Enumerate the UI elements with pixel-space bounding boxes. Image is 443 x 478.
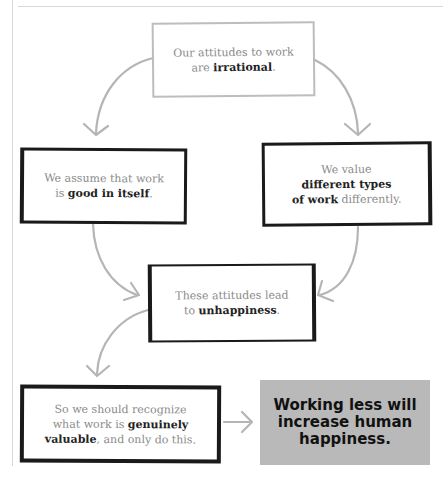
node-text: are bbox=[191, 61, 213, 74]
node-unhappy: These attitudes lead to unhappiness. bbox=[148, 263, 317, 342]
node-text: . bbox=[277, 304, 281, 317]
arrow-assume-to-unhappy bbox=[93, 224, 137, 295]
node-text: We value bbox=[321, 162, 371, 175]
node-text: . bbox=[272, 60, 276, 73]
node-text: These attitudes lead bbox=[175, 289, 288, 303]
arrow-unhappy-to-recognize bbox=[97, 310, 148, 374]
node-text: We assume that work bbox=[44, 172, 164, 186]
node-bold-text: different types bbox=[301, 177, 391, 191]
node-bold-text: unhappiness bbox=[198, 304, 276, 318]
conclusion-text: increase human bbox=[278, 413, 413, 431]
node-text: , and only do this. bbox=[97, 432, 197, 446]
arrow-value-to-unhappy bbox=[320, 227, 358, 295]
node-text: differently. bbox=[338, 192, 402, 206]
node-conclusion: Working less will increase human happine… bbox=[260, 380, 430, 465]
conclusion-text: Working less will bbox=[273, 396, 416, 414]
node-bold-text: good in itself bbox=[68, 187, 149, 201]
node-text: Our attitudes to work bbox=[173, 45, 294, 59]
node-value: We value different types of work differe… bbox=[262, 141, 433, 226]
node-premise: Our attitudes to work are irrational. bbox=[152, 21, 316, 98]
arrow-premise-to-value bbox=[315, 60, 358, 133]
arrow-premise-to-assume bbox=[96, 58, 153, 133]
node-text: what work is bbox=[53, 417, 128, 430]
node-bold-text: irrational bbox=[213, 60, 272, 74]
node-assume: We assume that work is good in itself. bbox=[20, 147, 188, 224]
node-text: is bbox=[55, 187, 68, 200]
node-bold-text: genuinely bbox=[128, 418, 189, 431]
node-text: . bbox=[149, 187, 153, 200]
node-bold-text: valuable bbox=[45, 432, 97, 445]
node-text: to bbox=[184, 304, 199, 317]
node-recognize: So we should recognize what work is genu… bbox=[20, 384, 221, 463]
node-text: So we should recognize bbox=[54, 402, 186, 416]
node-bold-text: of work bbox=[292, 193, 338, 206]
conclusion-text: happiness. bbox=[299, 430, 391, 448]
